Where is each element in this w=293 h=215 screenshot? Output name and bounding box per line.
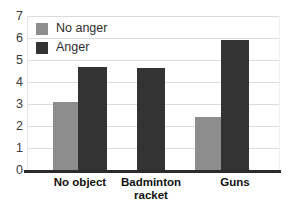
bar-badminton-racket-anger [137, 68, 165, 170]
x-axis-label-badminton-racket: Badmintonracket [121, 176, 181, 202]
y-tick-label-7: 7 [16, 10, 23, 23]
legend-label-no-anger: No anger [56, 22, 107, 35]
bar-guns-no-anger [195, 117, 221, 170]
legend-label-anger: Anger [56, 41, 89, 54]
legend-item-anger: Anger [36, 38, 107, 57]
y-tick-label-2: 2 [16, 120, 23, 133]
bar-no-object-anger [78, 67, 107, 170]
bar-guns-anger [221, 40, 249, 170]
legend-swatch-no-anger-icon [36, 23, 48, 35]
bar-chart: 7 6 5 4 3 2 1 0 No object Ba [0, 0, 293, 215]
y-tick-label-1: 1 [16, 142, 23, 155]
y-tick-label-6: 6 [16, 32, 23, 45]
x-axis-label-guns: Guns [220, 176, 249, 189]
y-tick-label-5: 5 [16, 54, 23, 67]
x-axis-label-badminton-line1: Badminton [121, 176, 181, 188]
legend-item-no-anger: No anger [36, 19, 107, 38]
chart-legend: No anger Anger [36, 19, 107, 57]
y-tick-label-4: 4 [16, 76, 23, 89]
x-axis-label-badminton-line2: racket [134, 189, 168, 201]
x-axis-line [24, 170, 281, 173]
y-tick-label-3: 3 [16, 98, 23, 111]
x-axis-label-no-object: No object [54, 176, 106, 189]
y-tick-label-0: 0 [16, 164, 23, 177]
bar-no-object-no-anger [53, 102, 78, 170]
legend-swatch-anger-icon [36, 42, 48, 54]
